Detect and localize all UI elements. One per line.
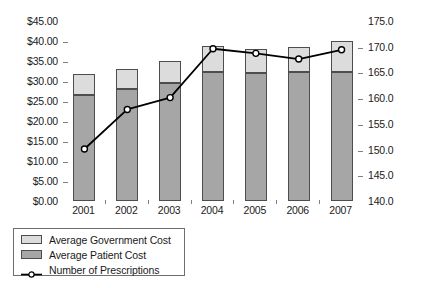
x-axis-tick-label: 2003	[158, 204, 181, 217]
bar-segment-government-cost	[73, 74, 95, 95]
legend-label-patient-cost: Average Patient Cost	[49, 249, 146, 261]
right-axis-tick-label: 155.0	[368, 118, 393, 129]
right-axis: 140.0145.0150.0155.0160.0165.0170.0175.0	[368, 21, 424, 201]
bar-series-layer	[63, 22, 362, 201]
bar-group	[331, 21, 353, 201]
bar-group	[116, 21, 138, 201]
x-axis: 2001200220032004200520062007	[62, 204, 362, 220]
legend-line-open-circle-icon	[21, 265, 42, 274]
x-axis-tick-mark	[148, 200, 149, 204]
bar-segment-government-cost	[288, 47, 310, 72]
right-axis-tick-label: 145.0	[368, 170, 393, 181]
left-axis-tick-label: $5.00	[33, 176, 58, 187]
bar-group	[288, 21, 310, 201]
x-axis-tick-label: 2002	[115, 204, 138, 217]
legend-swatch-government-cost-icon	[21, 235, 42, 244]
bar-segment-patient-cost	[73, 95, 95, 201]
left-axis-tick-label: $40.00	[27, 36, 58, 47]
x-axis-tick-mark	[105, 200, 106, 204]
left-axis-tick-label: $0.00	[33, 196, 58, 207]
right-axis-tick-label: 140.0	[368, 196, 393, 207]
bar-group	[245, 21, 267, 201]
x-axis-tick-label: 2006	[286, 204, 309, 217]
left-axis-tick-label: $45.00	[27, 16, 58, 27]
bar-group	[159, 21, 181, 201]
bar-segment-government-cost	[245, 49, 267, 73]
left-axis-tick-label: $15.00	[27, 136, 58, 147]
bar-segment-government-cost	[159, 61, 181, 83]
x-axis-tick-mark	[319, 200, 320, 204]
left-axis: $0.00$5.00$10.00$15.00$20.00$25.00$30.00…	[2, 21, 58, 201]
bar-group	[73, 21, 95, 201]
legend-label-prescriptions: Number of Prescriptions	[49, 264, 159, 276]
x-axis-tick-mark	[191, 200, 192, 204]
bar-segment-government-cost	[116, 69, 138, 89]
bar-segment-patient-cost	[116, 89, 138, 201]
left-axis-tick-label: $25.00	[27, 96, 58, 107]
x-axis-tick-label: 2004	[201, 204, 224, 217]
legend-item-patient-cost: Average Patient Cost	[21, 248, 179, 261]
bar-segment-patient-cost	[245, 73, 267, 201]
bar-segment-patient-cost	[159, 83, 181, 201]
chart-legend: Average Government Cost Average Patient …	[13, 228, 185, 276]
left-axis-tick-label: $30.00	[27, 76, 58, 87]
right-axis-tick-label: 175.0	[368, 16, 393, 27]
x-axis-tick-label: 2005	[244, 204, 267, 217]
bar-segment-government-cost	[202, 46, 224, 72]
legend-item-prescriptions: Number of Prescriptions	[21, 263, 179, 276]
legend-swatch-patient-cost-icon	[21, 250, 42, 259]
x-axis-tick-label: 2007	[329, 204, 352, 217]
left-axis-tick-label: $35.00	[27, 56, 58, 67]
legend-item-government-cost: Average Government Cost	[21, 233, 179, 246]
x-axis-tick-mark	[276, 200, 277, 204]
right-axis-tick-label: 160.0	[368, 93, 393, 104]
right-axis-tick-label: 150.0	[368, 144, 393, 155]
x-axis-tick-mark	[233, 200, 234, 204]
dual-axis-chart: $0.00$5.00$10.00$15.00$20.00$25.00$30.00…	[0, 0, 430, 288]
bar-segment-patient-cost	[202, 72, 224, 201]
legend-label-government-cost: Average Government Cost	[49, 234, 171, 246]
bar-segment-patient-cost	[331, 72, 353, 201]
right-axis-tick-label: 165.0	[368, 67, 393, 78]
bar-group	[202, 21, 224, 201]
x-axis-tick-label: 2001	[72, 204, 95, 217]
left-axis-tick-label: $20.00	[27, 116, 58, 127]
right-axis-tick-label: 170.0	[368, 41, 393, 52]
left-axis-tick-label: $10.00	[27, 156, 58, 167]
bar-segment-patient-cost	[288, 72, 310, 201]
bar-segment-government-cost	[331, 41, 353, 72]
